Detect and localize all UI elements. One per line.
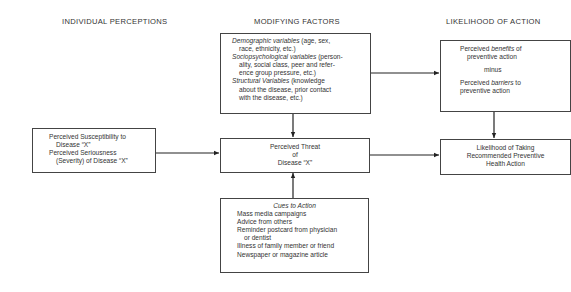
action-line-2: Recommended Preventive bbox=[441, 152, 570, 160]
likelihood-action-box: Likelihood of Taking Recommended Prevent… bbox=[440, 139, 571, 175]
cue-item: Illness of family member or friend bbox=[237, 242, 368, 250]
demographic-text: (age, sex, bbox=[299, 37, 330, 44]
action-line-3: Health Action bbox=[441, 160, 570, 168]
modifying-factors-box: Demographic variables (age, sex, race, e… bbox=[220, 33, 371, 114]
sociopsychological-label: Sociopsychological variables bbox=[232, 53, 316, 60]
benefits-line-cont: preventive action bbox=[460, 53, 570, 61]
sociopsychological-variables: Sociopsychological variables (person- bbox=[232, 53, 370, 61]
benefits-label: benefits bbox=[491, 45, 514, 52]
structural-label: Structural Variables bbox=[232, 77, 289, 84]
action-line-1: Likelihood of Taking bbox=[441, 144, 570, 152]
demographic-cont: race, ethnicity, etc.) bbox=[232, 45, 370, 53]
sociopsychological-cont-1: ality, social class, peer and refer- bbox=[232, 61, 370, 69]
structural-variables: Structural Variables (knowledge bbox=[232, 77, 370, 85]
demographic-label: Demographic variables bbox=[232, 37, 299, 44]
benefits-post: of bbox=[514, 45, 521, 52]
minus-label: minus bbox=[460, 66, 570, 74]
barriers-line-cont: preventive action bbox=[460, 87, 570, 95]
structural-cont-1: about the disease, prior contact bbox=[232, 86, 370, 94]
cue-item: Newspaper or magazine article bbox=[237, 251, 368, 259]
barriers-label: barriers bbox=[491, 79, 513, 86]
cue-item: Reminder postcard from physician bbox=[237, 226, 368, 234]
barriers-pre: Perceived bbox=[460, 79, 491, 86]
threat-line-1: Perceived Threat bbox=[221, 143, 369, 151]
benefits-pre: Perceived bbox=[460, 45, 491, 52]
cue-item: Advice from others bbox=[237, 218, 368, 226]
susceptibility-line-cont: Disease “X” bbox=[49, 141, 155, 149]
cues-title-text: Cues to Action bbox=[273, 202, 316, 209]
cues-to-action-box: Cues to Action Mass media campaigns Advi… bbox=[220, 198, 369, 273]
threat-line-3: Disease “X” bbox=[221, 159, 369, 167]
benefits-line: Perceived benefits of bbox=[460, 45, 570, 53]
seriousness-line: Perceived Seriousness bbox=[49, 149, 155, 157]
individual-perceptions-box: Perceived Susceptibility to Disease “X” … bbox=[32, 128, 156, 173]
sociopsychological-text: (person- bbox=[316, 53, 342, 60]
demographic-variables: Demographic variables (age, sex, bbox=[232, 37, 370, 45]
structural-cont-2: with the disease, etc.) bbox=[232, 94, 370, 102]
sociopsychological-cont-2: ence group pressure, etc.) bbox=[232, 69, 370, 77]
barriers-line: Perceived barriers to bbox=[460, 79, 570, 87]
barriers-post: to bbox=[514, 79, 521, 86]
seriousness-line-cont: (Severity) of Disease “X” bbox=[49, 157, 155, 165]
cue-item: Mass media campaigns bbox=[237, 210, 368, 218]
cue-item-cont: or dentist bbox=[237, 234, 368, 242]
structural-text: (knowledge bbox=[289, 77, 325, 84]
threat-line-2: of bbox=[221, 151, 369, 159]
susceptibility-line: Perceived Susceptibility to bbox=[49, 133, 155, 141]
cues-title: Cues to Action bbox=[221, 202, 368, 210]
benefits-barriers-box: Perceived benefits of preventive action … bbox=[440, 40, 571, 112]
perceived-threat-box: Perceived Threat of Disease “X” bbox=[220, 138, 370, 173]
